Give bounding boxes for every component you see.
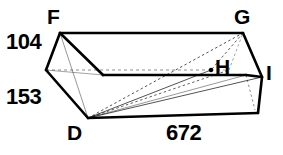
vertex-label-F: F — [47, 6, 60, 27]
edge-I-B-right-depth — [258, 77, 262, 113]
edge-F-H-top-depth — [60, 33, 103, 75]
diagonal-D-to-I — [88, 77, 262, 118]
edge-D-B-bottom-front — [88, 113, 258, 118]
edge-G-I-right-vertical — [243, 33, 262, 77]
dimension-label-depth: 153 — [6, 86, 41, 108]
construction-line-E-to-inner — [46, 70, 103, 75]
diagonal-right-face-upper-dotted — [229, 33, 243, 70]
vertex-label-H: H — [215, 56, 230, 77]
dimension-label-height: 104 — [6, 31, 41, 53]
edge-F-E-left-vertical — [46, 33, 60, 70]
diagonal-D-to-inner-right — [88, 75, 246, 118]
diagonal-right-face-dotted — [246, 75, 255, 110]
point-H-marker — [209, 68, 213, 72]
edge-E-D-left-depth — [46, 70, 88, 118]
dimension-label-width: 672 — [166, 122, 201, 144]
diagonal-D-to-back-top-dotted — [88, 70, 229, 118]
vertex-label-I: I — [266, 62, 272, 83]
vertex-label-G: G — [234, 6, 250, 27]
edge-H-I-right-inner — [246, 75, 262, 77]
diagonal-D-to-H — [88, 70, 211, 118]
vertex-label-D: D — [67, 122, 82, 143]
